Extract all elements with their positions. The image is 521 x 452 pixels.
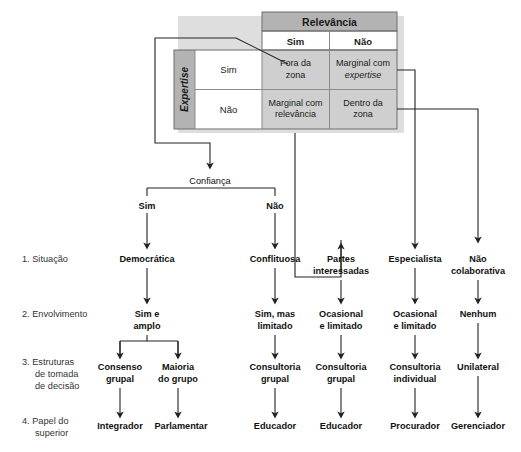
- stage-4-nodes: Integrador Parlamentar Educador Educador…: [97, 421, 505, 431]
- node-procurador[interactable]: Procurador: [390, 421, 440, 431]
- stage-label-1: 1. Situação: [22, 254, 68, 264]
- node-sim-mas-limitado-line1[interactable]: Sim, mas: [255, 309, 295, 319]
- matrix-col-sim-label: Sim: [287, 36, 304, 47]
- node-educador-b[interactable]: Educador: [320, 421, 363, 431]
- node-partes-interessadas-line1[interactable]: Partes: [327, 254, 355, 264]
- node-sim-e-amplo-line1[interactable]: Sim e: [135, 309, 160, 319]
- node-consenso-grupal-line1[interactable]: Consenso: [98, 362, 143, 372]
- decision-confianca-label: Confiança: [189, 176, 231, 186]
- node-conflituosa[interactable]: Conflituosa: [250, 254, 301, 264]
- stage-label-4-line1: 4. Papel do: [22, 416, 69, 426]
- matrix-cell-dentro-da-zona-line2: zona: [353, 109, 373, 119]
- node-consultoria-grupal-b-line2[interactable]: grupal: [327, 374, 355, 384]
- decision-flow-diagram: Relevância Sim Não Expertise Sim Não For…: [0, 0, 521, 452]
- matrix-cell-marginal-relevancia-line2: relevância: [275, 109, 316, 119]
- node-parlamentar[interactable]: Parlamentar: [154, 421, 208, 431]
- matrix-row-header-label: Expertise: [179, 67, 190, 112]
- node-maioria-do-grupo-line1[interactable]: Maioria: [162, 362, 195, 372]
- stage-label-3-line3: de decisão: [35, 381, 79, 391]
- decision-branch-sim: Sim: [139, 201, 156, 211]
- matrix-table: Relevância Sim Não Expertise Sim Não For…: [174, 12, 404, 133]
- node-nao-colaborativa-line1[interactable]: Não: [469, 254, 487, 264]
- stage-label-3-line1: 3. Estruturas: [22, 357, 74, 367]
- node-unilateral[interactable]: Unilateral: [457, 362, 499, 372]
- node-consultoria-individual-line2[interactable]: individual: [394, 374, 437, 384]
- matrix-col-header-label: Relevância: [302, 16, 357, 28]
- decision-confianca: Confiança Sim Não: [139, 176, 284, 246]
- matrix-row-nao-label: Não: [220, 104, 237, 115]
- node-consenso-grupal-line2[interactable]: grupal: [106, 374, 134, 384]
- node-nao-colaborativa-line2[interactable]: colaborativa: [451, 266, 506, 276]
- node-ocasional-limitado-a-line1[interactable]: Ocasional: [319, 309, 363, 319]
- decision-branch-nao: Não: [266, 201, 284, 211]
- node-maioria-do-grupo-line2[interactable]: do grupo: [158, 374, 198, 384]
- stage-label-4-line2: superior: [35, 428, 68, 438]
- node-sim-e-amplo-line2[interactable]: amplo: [133, 321, 160, 331]
- node-especialista[interactable]: Especialista: [388, 254, 442, 264]
- decision-confianca-split: [147, 188, 275, 196]
- stage-label-2: 2. Envolvimento: [22, 309, 87, 319]
- matrix-cell-fora-da-zona-line2: zona: [286, 70, 306, 80]
- node-integrador[interactable]: Integrador: [97, 421, 143, 431]
- node-sim-mas-limitado-line2[interactable]: limitado: [257, 321, 293, 331]
- matrix-col-nao-label: Não: [354, 36, 372, 47]
- matrix-cell-dentro-da-zona-line1: Dentro da: [343, 98, 383, 108]
- matrix-cell-marginal-expertise-line2: expertise: [345, 70, 382, 80]
- node-ocasional-limitado-b-line2[interactable]: e limitado: [394, 321, 437, 331]
- node-consultoria-grupal-b-line1[interactable]: Consultoria: [315, 362, 367, 372]
- connector-sim-amplo-split: [120, 335, 178, 356]
- node-consultoria-grupal-a-line2[interactable]: grupal: [261, 374, 289, 384]
- stage-label-3-line2: de tomada: [35, 369, 79, 379]
- matrix-cell-fora-da-zona-line1: Fora da: [280, 58, 311, 68]
- stage-3-nodes: Consenso grupal Maioria do grupo Consult…: [98, 362, 499, 384]
- diagram-canvas: Relevância Sim Não Expertise Sim Não For…: [0, 0, 521, 452]
- node-gerenciador[interactable]: Gerenciador: [451, 421, 506, 431]
- node-ocasional-limitado-b-line1[interactable]: Ocasional: [393, 309, 437, 319]
- node-nenhum[interactable]: Nenhum: [460, 309, 497, 319]
- node-partes-interessadas-line2[interactable]: interessadas: [313, 266, 369, 276]
- node-consultoria-grupal-a-line1[interactable]: Consultoria: [249, 362, 301, 372]
- node-democratica[interactable]: Democrática: [119, 254, 175, 264]
- node-educador-a[interactable]: Educador: [254, 421, 297, 431]
- node-consultoria-individual-line1[interactable]: Consultoria: [389, 362, 441, 372]
- stage-2-nodes: Sim e amplo Sim, mas limitado Ocasional …: [133, 309, 496, 331]
- connector-dentro-da-zona: [397, 109, 478, 240]
- stage-1-nodes: Democrática Conflituosa Partes interessa…: [119, 254, 506, 276]
- matrix-cell-marginal-expertise-line1: Marginal com: [336, 58, 390, 68]
- node-ocasional-limitado-a-line2[interactable]: e limitado: [320, 321, 363, 331]
- matrix-cell-marginal-relevancia-line1: Marginal com: [268, 98, 322, 108]
- matrix-row-sim-label: Sim: [220, 64, 236, 75]
- stage-labels: 1. Situação 2. Envolvimento 3. Estrutura…: [22, 254, 87, 438]
